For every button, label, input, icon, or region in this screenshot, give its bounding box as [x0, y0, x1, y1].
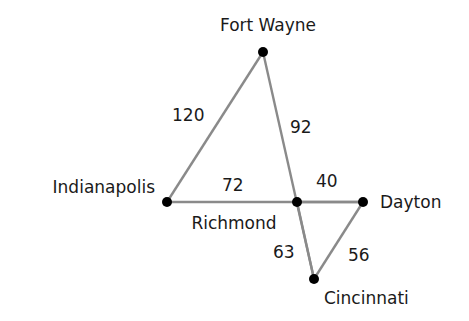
- nodes: [162, 47, 368, 284]
- node-cincinnati: [309, 274, 319, 284]
- city-label-fort_wayne: Fort Wayne: [220, 15, 316, 35]
- node-indianapolis: [162, 197, 172, 207]
- edge-richmond-cincinnati: [297, 202, 314, 279]
- node-dayton: [358, 197, 368, 207]
- edges: [167, 52, 363, 279]
- node-fort_wayne: [258, 47, 268, 57]
- edge-weight-label: 92: [290, 117, 312, 137]
- edge-dayton-cincinnati: [314, 202, 363, 279]
- city-label-richmond: Richmond: [191, 213, 276, 233]
- city-distance-graph: 1209272406356Fort WayneIndianapolisRichm…: [0, 0, 469, 321]
- city-label-indianapolis: Indianapolis: [53, 177, 156, 197]
- city-label-cincinnati: Cincinnati: [324, 288, 409, 308]
- node-richmond: [292, 197, 302, 207]
- edge-weight-label: 120: [172, 105, 204, 125]
- edge-weight-label: 40: [316, 171, 338, 191]
- edge-weight-label: 56: [348, 245, 370, 265]
- edge-weight-label: 63: [273, 242, 295, 262]
- labels: 1209272406356Fort WayneIndianapolisRichm…: [53, 15, 442, 308]
- edge-fort_wayne-indianapolis: [167, 52, 263, 202]
- city-label-dayton: Dayton: [380, 192, 441, 212]
- edge-weight-label: 72: [222, 175, 244, 195]
